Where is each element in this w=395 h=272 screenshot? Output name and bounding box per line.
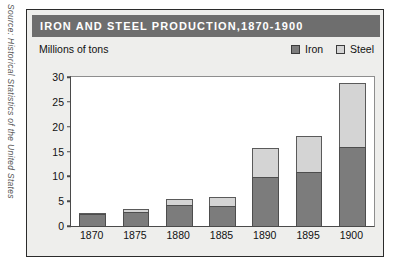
y-tick-mark	[67, 176, 71, 178]
y-axis-title: Millions of tons	[39, 43, 108, 55]
y-tick-mark	[67, 126, 71, 128]
chart-legend: Iron Steel	[291, 43, 374, 55]
legend-swatch-iron	[291, 45, 300, 54]
bar-segment-iron	[79, 214, 106, 226]
legend-entry-steel: Steel	[336, 43, 374, 55]
bar-segment-steel	[209, 197, 236, 205]
x-tick-label: 1880	[167, 229, 190, 241]
plot-area: 051015202530	[70, 76, 375, 227]
legend-label-steel: Steel	[350, 43, 374, 55]
chart-title-bar: IRON AND STEEL PRODUCTION,1870-1900	[32, 15, 380, 37]
y-tick-mark	[67, 200, 71, 202]
x-tick-label: 1900	[340, 229, 363, 241]
bar-segment-iron	[296, 172, 323, 226]
x-tick-label: 1890	[253, 229, 276, 241]
chart-title: IRON AND STEEL PRODUCTION,1870-1900	[32, 20, 303, 32]
bar-stack	[209, 197, 236, 226]
bar-stack	[296, 136, 323, 226]
chart-body: Millions of tons Iron Steel 051015202530…	[32, 41, 380, 253]
bar-segment-steel	[252, 148, 279, 177]
bar-stack	[166, 199, 193, 226]
legend-entry-iron: Iron	[291, 43, 323, 55]
bar-stack	[339, 83, 366, 226]
bar-stack	[123, 209, 150, 226]
source-credit-text: Source: Historical Statistics of the Uni…	[6, 4, 16, 199]
chart-panel: IRON AND STEEL PRODUCTION,1870-1900 Mill…	[26, 9, 384, 257]
x-tick-label: 1895	[296, 229, 319, 241]
bar-segment-iron	[209, 206, 236, 226]
x-tick-label: 1870	[80, 229, 103, 241]
bar-segment-iron	[123, 212, 150, 226]
legend-swatch-steel	[336, 45, 345, 54]
bar-segment-iron	[252, 177, 279, 226]
y-tick-mark	[67, 101, 71, 103]
y-tick-mark	[67, 76, 71, 78]
x-tick-label: 1875	[123, 229, 146, 241]
bar-segment-steel	[296, 136, 323, 172]
bar-segment-steel	[339, 83, 366, 147]
x-tick-label: 1885	[210, 229, 233, 241]
bar-stack	[79, 213, 106, 226]
bar-stack	[252, 148, 279, 226]
y-tick-mark	[67, 225, 71, 227]
bar-segment-iron	[339, 147, 366, 226]
bar-segment-iron	[166, 205, 193, 226]
plot-wrap: 051015202530 187018751880188518901895190…	[32, 65, 380, 253]
figure-root: Source: Historical Statistics of the Uni…	[0, 0, 395, 272]
x-axis-labels: 1870187518801885189018951900	[70, 229, 373, 249]
source-credit: Source: Historical Statistics of the Uni…	[0, 0, 22, 258]
legend-label-iron: Iron	[305, 43, 323, 55]
y-tick-mark	[67, 151, 71, 153]
